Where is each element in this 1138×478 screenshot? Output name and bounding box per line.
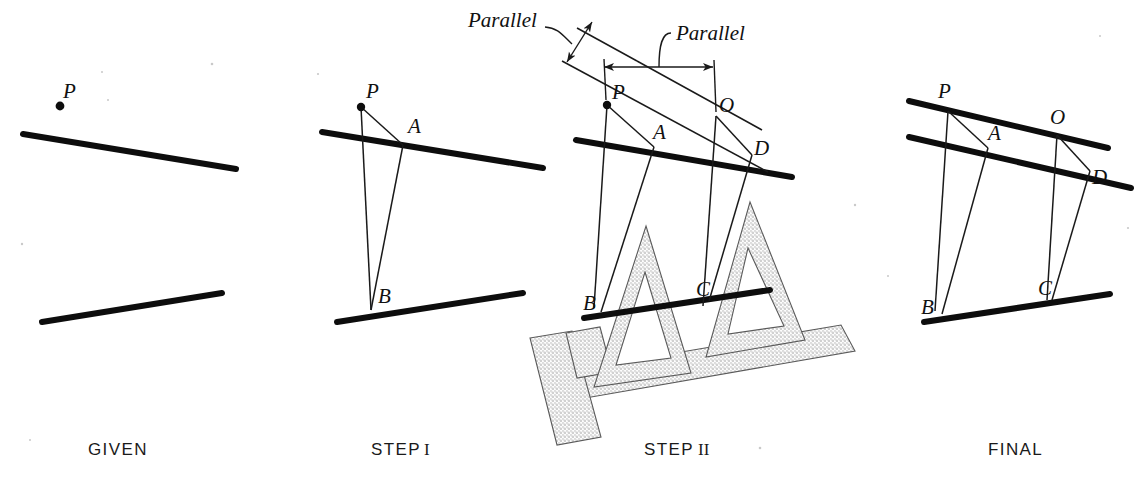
step1-label-P: P [365, 79, 379, 103]
final-label-C: C [1038, 276, 1053, 300]
final-label-B: B [921, 295, 934, 319]
final-label-A: A [986, 121, 1001, 145]
step1-label-A: A [406, 114, 421, 138]
caption-given: GIVEN [88, 440, 148, 459]
step2-label-P: P [611, 80, 625, 104]
step2-label-O: O [719, 93, 734, 117]
final-label-O: O [1050, 105, 1065, 129]
step1-label-B: B [378, 284, 391, 308]
caption-step2: STEP [644, 440, 694, 459]
given-label-P: P [62, 79, 76, 103]
final-label-D: D [1091, 165, 1107, 189]
construction-figure: P P A B [0, 0, 1138, 478]
caption-step1: STEP [371, 440, 421, 459]
caption-step2-numeral: II [698, 440, 710, 459]
step2-label-A: A [651, 120, 666, 144]
caption-final: FINAL [988, 440, 1043, 459]
step2-label-D: D [753, 136, 769, 160]
step2-label-B: B [583, 291, 596, 315]
step2-label-parallel-right: Parallel [675, 21, 745, 45]
step1-point-P [357, 103, 365, 111]
caption-step1-numeral: I [424, 440, 430, 459]
step2-label-parallel-left: Parallel [467, 8, 537, 32]
final-label-P: P [937, 79, 951, 103]
step2-label-C: C [696, 277, 711, 301]
step2-point-P [603, 101, 611, 109]
